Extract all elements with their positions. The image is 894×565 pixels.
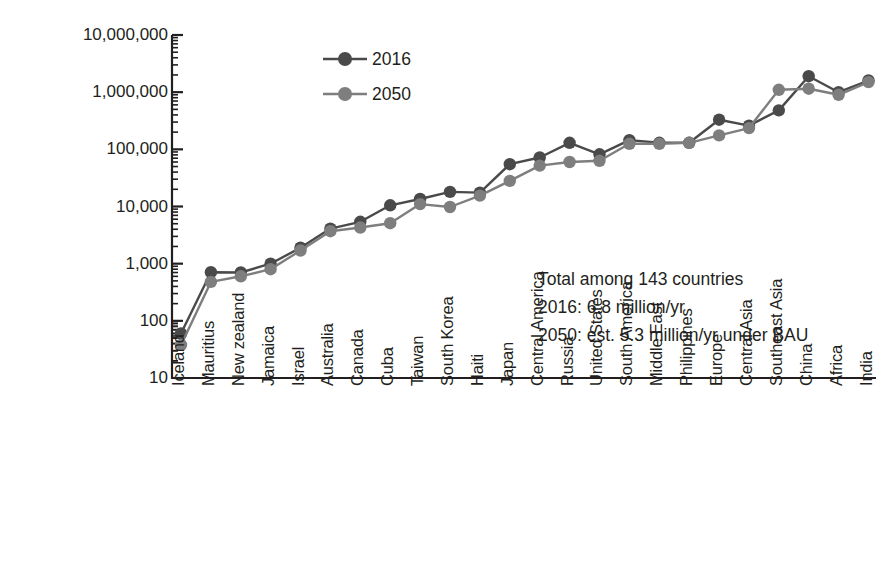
x-tick-label: Haiti [468, 354, 486, 386]
x-tick-label: Australia [318, 324, 336, 386]
legend-label-2050: 2050 [372, 85, 411, 103]
x-tick-label: Philippines [677, 308, 695, 386]
annotation-line-3: 2050: est. 5.3 million/yr under BAU [538, 326, 808, 344]
x-tick-label: South Korea [438, 296, 456, 386]
x-tick-label: Cuba [378, 347, 396, 386]
x-tick-label: Africa [827, 345, 845, 386]
legend-label-2016: 2016 [372, 50, 411, 68]
annotation-line-1: Total among 143 countries [538, 270, 743, 288]
x-tick-label: Canada [348, 329, 366, 386]
x-tick-label: Japan [498, 342, 516, 386]
x-tick-label: Israel [289, 347, 307, 386]
x-tick-label: China [797, 344, 815, 386]
x-tick-label: Iceland [169, 334, 187, 386]
x-tick-label: Mauritius [199, 321, 217, 386]
x-tick-label: Taiwan [408, 336, 426, 386]
x-tick-label: New zealand [229, 293, 247, 386]
x-tick-label: Jamaica [259, 326, 277, 386]
air-pollution-mortalities-chart: Air pollution mortalities per year 10,00… [0, 0, 894, 565]
x-tick-label: India [857, 351, 875, 386]
x-axis-tick-labels: IcelandMauritiusNew zealandJamaicaIsrael… [0, 0, 894, 565]
annotation-line-2: 2016: 6.8 million/yr [538, 298, 685, 316]
